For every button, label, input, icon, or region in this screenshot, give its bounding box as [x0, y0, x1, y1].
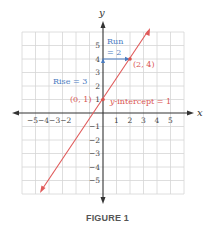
x-tick-4: 4 — [155, 116, 160, 125]
y-tick-4: 4 — [95, 55, 100, 64]
x-axis-arrow-left — [12, 111, 19, 116]
x-axis-arrow-right — [187, 111, 194, 116]
point-b-label: (2, 4) — [133, 60, 155, 69]
y-axis-label: y — [98, 7, 105, 18]
point-0-1 — [101, 98, 105, 102]
y-tick-neg3: −3 — [89, 149, 100, 158]
line-arrow-down — [40, 186, 46, 194]
x-axis-label: x — [197, 107, 203, 118]
coordinate-graph: x y −5−4−3−2 1 2 3 4 5 5 4 3 2 1 −1 −2 −… — [0, 0, 215, 232]
rise-label: Rise = 3 — [53, 77, 87, 86]
run-label-line1: Run — [107, 37, 123, 46]
point-2-4 — [128, 57, 132, 61]
y-tick-1: 1 — [95, 95, 100, 104]
x-tick-labels: −5−4−3−2 1 2 3 4 5 — [27, 116, 173, 125]
y-tick-neg5: −5 — [89, 176, 100, 185]
figure-caption: FIGURE 1 — [0, 213, 215, 223]
y-tick-neg4: −4 — [89, 163, 100, 172]
point-a-label: (0, 1) — [70, 95, 92, 104]
y-tick-5: 5 — [95, 41, 100, 50]
y-tick-2: 2 — [95, 82, 100, 91]
x-tick-1: 1 — [114, 116, 119, 125]
y-tick-neg2: −2 — [89, 136, 100, 145]
y-tick-3: 3 — [95, 68, 100, 77]
y-intercept-label: y-intercept = 1 — [109, 97, 171, 106]
x-tick-2: 2 — [128, 116, 133, 125]
x-tick-5: 5 — [168, 116, 173, 125]
x-tick-negatives: −5−4−3−2 — [27, 116, 71, 125]
x-tick-3: 3 — [141, 116, 146, 125]
y-axis-arrow-down — [101, 197, 106, 204]
run-label-line2: = 2 — [107, 48, 121, 57]
y-axis-arrow-up — [101, 21, 106, 28]
y-tick-neg1: −1 — [89, 122, 100, 131]
